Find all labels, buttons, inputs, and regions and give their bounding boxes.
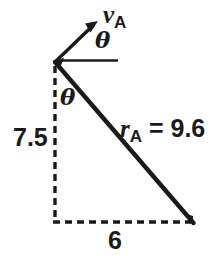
velocity-vector-shaft: [55, 26, 93, 63]
figure-container: vA θ θ 7.5 rA = 9.6 6: [0, 0, 212, 269]
hypotenuse-subscript: A: [130, 127, 142, 146]
hypotenuse-equals: =: [142, 114, 171, 142]
hypotenuse-value: 9.6: [171, 114, 206, 142]
angle-theta-top-label: θ: [95, 28, 110, 51]
velocity-symbol: v: [103, 1, 114, 28]
vertical-leg-label: 7.5: [13, 125, 48, 150]
angle-theta-side-label: θ: [60, 85, 75, 108]
velocity-subscript: A: [114, 13, 126, 32]
hypotenuse-symbol: r: [120, 115, 130, 142]
horizontal-leg-label: 6: [108, 228, 122, 253]
hypotenuse-label: rA = 9.6: [120, 116, 205, 145]
